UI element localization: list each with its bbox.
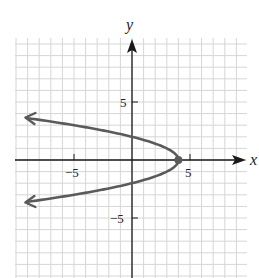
y-tick-label-neg5: −5 (110, 211, 124, 226)
y-tick-label-5: 5 (120, 95, 127, 110)
x-tick-label-neg5: −5 (65, 165, 79, 180)
x-axis-label: x (249, 151, 257, 168)
grid (15, 38, 247, 278)
vertex-point (174, 156, 182, 164)
x-tick-label-5: 5 (185, 165, 192, 180)
parabola-graph: −5 5 5 −5 x y (0, 0, 259, 278)
axes (15, 39, 246, 278)
y-axis-label: y (124, 16, 134, 34)
